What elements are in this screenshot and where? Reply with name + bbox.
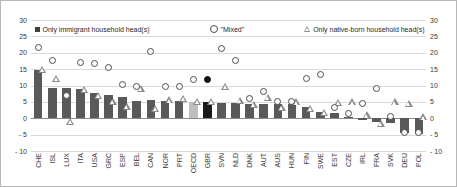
- triangle-icon: [80, 86, 88, 93]
- triangle-marker-ita: [80, 86, 88, 93]
- x-axis-label-oecd: OECD: [190, 153, 197, 173]
- bar-cze: [344, 117, 353, 118]
- x-axis-label-can: CAN: [147, 153, 154, 168]
- circle-marker-oecd: [190, 76, 197, 83]
- y-tick-right-neg10: - 10: [430, 148, 456, 155]
- triangle-marker-irl: [363, 111, 371, 118]
- triangle-icon: [52, 75, 60, 82]
- circle-marker-prt: [176, 83, 183, 90]
- triangle-icon: [236, 97, 244, 104]
- triangle-icon: [419, 113, 427, 120]
- gridline: [31, 20, 426, 21]
- circle-marker-nld: [232, 57, 239, 64]
- triangle-icon: [320, 109, 328, 116]
- x-axis-label-fra: FRA: [373, 153, 380, 167]
- gridline: [31, 151, 426, 152]
- triangle-icon: [377, 120, 385, 127]
- y-tick-left-0: 0: [3, 115, 27, 122]
- gridline: [31, 36, 426, 37]
- gridline: [31, 53, 426, 54]
- x-axis-label-fin: FIN: [303, 153, 310, 164]
- triangle-marker-can: [151, 105, 159, 112]
- x-axis-label-irl: IRL: [359, 153, 366, 164]
- circle-marker-gbr: [204, 76, 211, 83]
- x-axis-label-aut: AUT: [260, 153, 267, 167]
- x-axis-label-nor: NOR: [162, 153, 169, 169]
- circle-marker-nor: [162, 83, 169, 90]
- plot-area: [31, 20, 426, 151]
- y-tick-right-5: 5: [430, 98, 456, 105]
- x-axis-label-cze: CZE: [345, 153, 352, 167]
- x-axis-label-nld: NLD: [232, 153, 239, 167]
- x-axis-label-hun: HUN: [288, 153, 295, 168]
- circle-marker-grc: [105, 64, 112, 71]
- circle-marker-isl: [49, 57, 56, 64]
- x-axis-label-deu: DEU: [401, 153, 408, 168]
- x-axis-label-gbr: GBR: [204, 153, 211, 168]
- bar-est: [330, 113, 339, 118]
- triangle-marker-oecd: [193, 98, 201, 105]
- y-tick-left-10: 10: [3, 82, 27, 89]
- gridline: [31, 135, 426, 136]
- bar-bel: [132, 101, 141, 119]
- x-axis-label-svk: SVK: [387, 153, 394, 167]
- triangle-icon: [405, 100, 413, 107]
- bar-isl: [48, 88, 57, 118]
- triangle-icon: [221, 83, 229, 90]
- triangle-marker-nor: [165, 96, 173, 103]
- x-axis-label-est: EST: [331, 153, 338, 167]
- triangle-marker-fin: [306, 105, 314, 112]
- bar-prt: [175, 101, 184, 118]
- y-tick-right-15: 15: [430, 66, 456, 73]
- bar-svn: [217, 103, 226, 118]
- triangle-icon: [38, 66, 46, 73]
- bar-nor: [161, 101, 170, 118]
- x-axis-label-dnk: DNK: [246, 153, 253, 168]
- triangle-marker-pol: [419, 113, 427, 120]
- x-axis-label-esp: ESP: [119, 153, 126, 167]
- triangle-icon: [165, 96, 173, 103]
- y-tick-left-30: 30: [3, 17, 27, 24]
- y-tick-left-15: 15: [3, 66, 27, 73]
- circle-marker-usa: [91, 60, 98, 67]
- x-axis-label-isl: ISL: [49, 153, 56, 164]
- y-tick-right-25: 25: [430, 33, 456, 40]
- triangle-icon: [363, 111, 371, 118]
- triangle-marker-grc: [109, 98, 117, 105]
- bar-nld: [231, 103, 240, 118]
- circle-marker-svn: [218, 45, 225, 52]
- triangle-marker-lux: [66, 118, 74, 125]
- circle-marker-che: [35, 44, 42, 51]
- bar-ita: [76, 89, 85, 118]
- circle-marker-svk: [387, 113, 394, 120]
- y-tick-left-5: 5: [3, 98, 27, 105]
- x-axis-label-aus: AUS: [274, 153, 281, 167]
- triangle-marker-aut: [264, 94, 272, 101]
- triangle-icon: [348, 98, 356, 105]
- triangle-icon: [391, 98, 399, 105]
- triangle-icon: [66, 118, 74, 125]
- y-tick-right-30: 30: [430, 17, 456, 24]
- x-axis-label-svn: SVN: [218, 153, 225, 167]
- triangle-marker-swe: [320, 109, 328, 116]
- y-tick-left-20: 20: [3, 49, 27, 56]
- x-axis-label-pol: POL: [415, 153, 422, 167]
- circle-marker-fin: [303, 75, 310, 82]
- x-axis-label-grc: GRC: [105, 153, 112, 169]
- y-tick-left-25: 25: [3, 33, 27, 40]
- triangle-icon: [151, 105, 159, 112]
- triangle-marker-che: [38, 66, 46, 73]
- triangle-marker-prt: [179, 95, 187, 102]
- circle-marker-esp: [119, 81, 126, 88]
- triangle-icon: [109, 98, 117, 105]
- circle-marker-fra: [373, 85, 380, 92]
- triangle-icon: [278, 104, 286, 111]
- y-tick-left-neg10: - 10: [3, 148, 27, 155]
- triangle-icon: [123, 103, 131, 110]
- triangle-marker-aus: [278, 104, 286, 111]
- circle-marker-cze: [345, 110, 352, 117]
- y-tick-left-neg5: - 5: [3, 131, 27, 138]
- triangle-marker-fra: [377, 120, 385, 127]
- x-axis-label-lux: LUX: [63, 153, 70, 167]
- triangle-marker-esp: [123, 103, 131, 110]
